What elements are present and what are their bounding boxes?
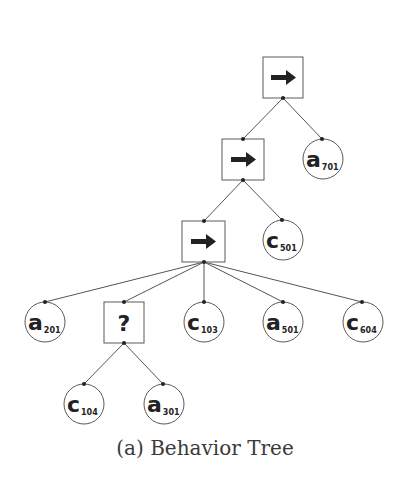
leaf-label: c xyxy=(346,310,359,335)
leaf-label: a xyxy=(266,310,281,335)
leaf-node-c104: c104 xyxy=(64,382,104,424)
leaf-subscript: 501 xyxy=(282,326,299,335)
question-mark-icon: ? xyxy=(118,311,131,336)
leaf-subscript: 104 xyxy=(81,408,98,417)
leaf-label: a xyxy=(147,392,162,417)
sequence-node-low xyxy=(182,219,225,264)
figure-caption: (a) Behavior Tree xyxy=(0,436,410,460)
edge-root-to-a701 xyxy=(283,98,322,139)
leaf-subscript: 301 xyxy=(163,408,180,417)
behavior-tree-figure: ? a701 c501 a201 xyxy=(0,0,410,483)
leaf-label: c xyxy=(266,228,279,253)
leaf-label: a xyxy=(306,147,321,172)
leaf-label: a xyxy=(28,310,43,335)
leaf-node-a701: a701 xyxy=(303,137,343,179)
fallback-node: ? xyxy=(104,300,144,345)
leaf-subscript: 201 xyxy=(44,326,61,335)
leaf-subscript: 501 xyxy=(280,244,297,253)
leaf-node-a501: a501 xyxy=(263,300,303,342)
leaf-node-a301: a301 xyxy=(144,382,184,424)
leaf-node-c604: c604 xyxy=(343,300,383,342)
sequence-node-mid xyxy=(222,137,264,182)
leaf-subscript: 604 xyxy=(360,326,377,335)
behavior-tree-diagram: ? a701 c501 a201 xyxy=(0,0,410,483)
edge-root-to-mid xyxy=(243,98,283,139)
edge-low-to-fallback xyxy=(124,262,204,302)
edge-fallback-to-a301 xyxy=(124,343,163,384)
leaf-subscript: 103 xyxy=(201,326,218,335)
leaf-label: c xyxy=(187,310,200,335)
leaf-node-a201: a201 xyxy=(25,300,65,342)
edge-low-to-a501 xyxy=(204,262,283,302)
leaf-label: c xyxy=(67,392,80,417)
leaf-node-c103: c103 xyxy=(184,300,224,342)
edge-mid-to-c501 xyxy=(243,180,282,220)
edge-fallback-to-c104 xyxy=(84,343,124,384)
sequence-node-root xyxy=(263,57,303,100)
leaf-subscript: 701 xyxy=(322,163,339,172)
edge-low-to-c604 xyxy=(204,262,362,302)
edge-low-to-a201 xyxy=(45,262,204,302)
leaf-node-c501: c501 xyxy=(263,218,303,260)
edge-mid-to-low xyxy=(204,180,243,221)
